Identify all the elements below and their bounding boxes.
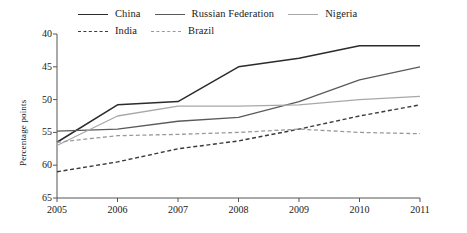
series-line-nigeria bbox=[57, 96, 420, 145]
series-lines bbox=[57, 46, 420, 172]
plot-area bbox=[0, 0, 467, 233]
series-line-china bbox=[57, 46, 420, 142]
series-line-india bbox=[57, 105, 420, 172]
series-line-brazil bbox=[57, 129, 420, 142]
line-chart: ChinaRussian FederationNigeriaIndiaBrazi… bbox=[0, 0, 467, 233]
